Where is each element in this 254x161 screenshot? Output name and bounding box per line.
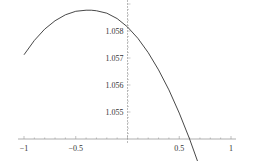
x-tick-label: 0.5 xyxy=(174,144,184,153)
x-tick-labels: −1−0.50.51 xyxy=(20,144,233,153)
x-tick-label: −1 xyxy=(20,144,29,153)
y-tick-label: 1.055 xyxy=(106,108,124,117)
y-tick-label: 1.056 xyxy=(106,81,124,90)
y-tick-label: 1.058 xyxy=(106,27,124,36)
y-tick-labels: 1.0551.0561.0571.058 xyxy=(106,27,124,117)
x-tick-label: −0.5 xyxy=(68,144,83,153)
y-tick-label: 1.057 xyxy=(106,54,124,63)
x-tick-label: 1 xyxy=(229,144,233,153)
axes xyxy=(18,0,236,143)
line-chart: −1−0.50.51 1.0551.0561.0571.058 xyxy=(0,0,254,161)
